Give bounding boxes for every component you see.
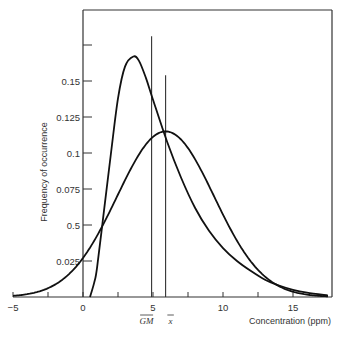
- y-tick-label: 0.125: [56, 112, 80, 123]
- x-axis-ticks: −5051015: [8, 292, 299, 313]
- x-axis-title: Concentration (ppm): [249, 316, 331, 326]
- y-tick-label: 0.025: [56, 256, 80, 267]
- y-tick-label: 0.075: [56, 184, 80, 195]
- x-tick-label: 15: [288, 302, 299, 313]
- distribution-chart: −5051015 0.0250.50.0750.10.1250.15 GMx C…: [0, 0, 343, 338]
- normal-curve: [13, 131, 328, 296]
- y-axis-ticks: 0.0250.50.0750.10.1250.15: [56, 45, 92, 267]
- y-axis-title: Frequency of occurrence: [39, 122, 49, 222]
- plot-frame: [13, 10, 332, 297]
- y-tick-label: 0.5: [67, 220, 80, 231]
- x-tick-label: 0: [80, 302, 85, 313]
- x-tick-label: −5: [8, 302, 19, 313]
- lognormal-curve: [90, 56, 328, 297]
- y-tick-label: 0.1: [67, 148, 80, 159]
- marker-label-gm: GM: [140, 316, 154, 326]
- y-tick-label: 0.15: [62, 76, 81, 87]
- x-tick-label: 10: [218, 302, 229, 313]
- marker-label-x: x: [168, 316, 173, 326]
- marker-lines: GMx: [140, 36, 174, 326]
- x-tick-label: 5: [150, 302, 155, 313]
